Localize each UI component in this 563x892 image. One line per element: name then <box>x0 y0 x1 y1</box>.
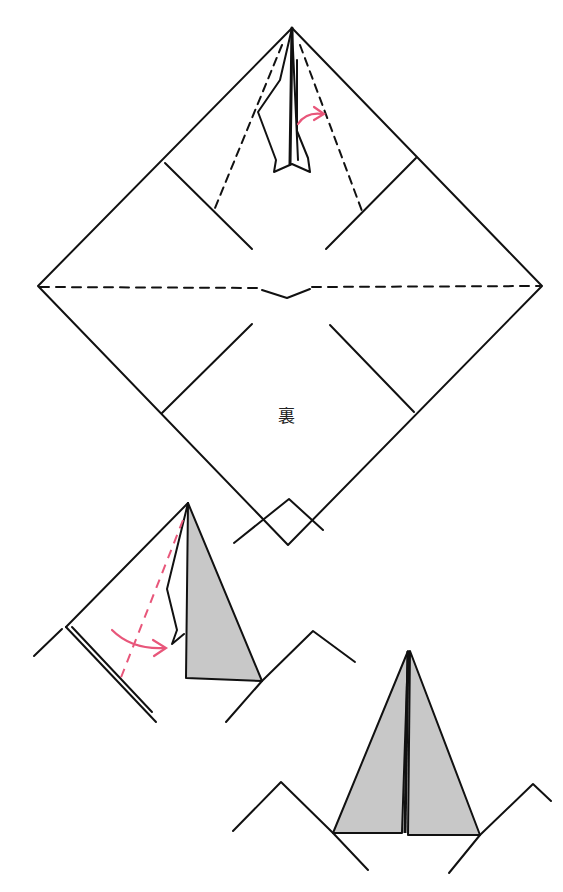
horizontal-valley-fold <box>40 286 540 298</box>
crease-lower-right <box>330 325 414 412</box>
crease-upper-left <box>165 163 252 249</box>
pink-valley-fold <box>120 520 183 680</box>
fold-arrow-icon <box>112 630 166 656</box>
step-c <box>233 651 551 873</box>
crease-lower-left <box>162 324 252 413</box>
step-b <box>34 499 355 722</box>
fold-arrow-icon <box>298 107 324 124</box>
crease-upper-right <box>326 158 416 249</box>
valley-fold-left <box>215 45 282 208</box>
back-side-label: 裏 <box>278 402 295 427</box>
valley-fold-right <box>300 45 362 211</box>
origami-diagram <box>0 0 563 892</box>
